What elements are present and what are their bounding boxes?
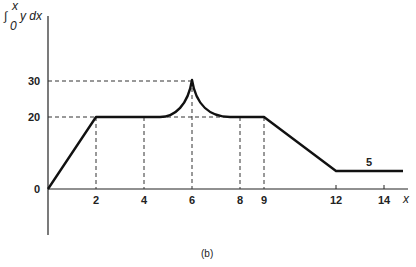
x-tick-14: 14 (378, 194, 391, 206)
x-tick-12: 12 (330, 194, 342, 206)
integral-curve (48, 80, 403, 189)
x-tick-2: 2 (93, 194, 99, 206)
y-tick-30: 30 (28, 75, 40, 87)
guide-lines (48, 81, 264, 189)
integral-sign: ∫ (3, 9, 8, 23)
x-tick-8: 8 (237, 194, 243, 206)
integral-lower-limit: 0 (10, 19, 17, 33)
x-tick-9: 9 (261, 194, 267, 206)
y-tick-20: 20 (28, 111, 40, 123)
integral-upper-limit: x (11, 0, 19, 13)
figure-caption: (b) (201, 248, 213, 259)
integral-body: y dx (19, 9, 43, 23)
x-axis-label: x (402, 192, 410, 206)
chart-canvas: ∫ x 0 y dx 30 20 0 2 4 6 8 9 12 14 x 5 (… (0, 0, 416, 267)
x-tick-6: 6 (189, 194, 195, 206)
y-tick-0: 0 (34, 183, 40, 195)
x-tick-4: 4 (141, 194, 148, 206)
annotation-5: 5 (366, 156, 372, 168)
y-axis-label: ∫ x 0 y dx (3, 0, 43, 33)
